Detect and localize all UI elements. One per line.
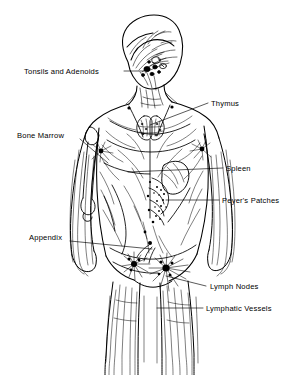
label-lymph-nodes: Lymph Nodes xyxy=(210,283,259,291)
label-spleen: Spleen xyxy=(226,165,251,173)
neck-outline xyxy=(129,85,172,104)
label-peyers-patches: Peyer's Patches xyxy=(222,197,279,205)
lymphatic-vessels-legs xyxy=(106,285,198,375)
label-bone-marrow: Bone Marrow xyxy=(17,132,64,140)
label-lymphatic-vessels: Lymphatic Vessels xyxy=(206,305,272,313)
leg-outlines xyxy=(105,280,194,375)
leader-appendix xyxy=(70,241,152,249)
leader-bone-marrow xyxy=(80,139,108,163)
anatomy-illustration xyxy=(0,0,297,375)
peyers-patches-structure xyxy=(149,178,169,225)
label-appendix: Appendix xyxy=(29,234,62,242)
leader-thymus xyxy=(150,103,208,125)
lymphatic-system-diagram: Tonsils and Adenoids Thymus Bone Marrow … xyxy=(0,0,297,375)
label-tonsils-and-adenoids: Tonsils and Adenoids xyxy=(24,68,99,76)
label-thymus: Thymus xyxy=(211,100,239,108)
